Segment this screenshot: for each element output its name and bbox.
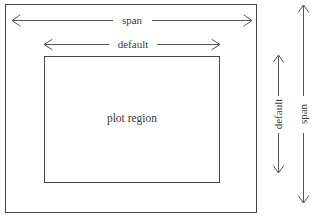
span-vertical-label: span (298, 104, 309, 124)
default-vertical-label: default (273, 99, 284, 130)
diagram-vector-layer (0, 0, 315, 219)
diagram-canvas: span default plot region default span (0, 0, 315, 219)
span-horizontal-label: span (122, 15, 142, 26)
span-box (6, 5, 257, 213)
plot-region-label: plot region (107, 113, 157, 125)
default-horizontal-label: default (118, 39, 149, 50)
